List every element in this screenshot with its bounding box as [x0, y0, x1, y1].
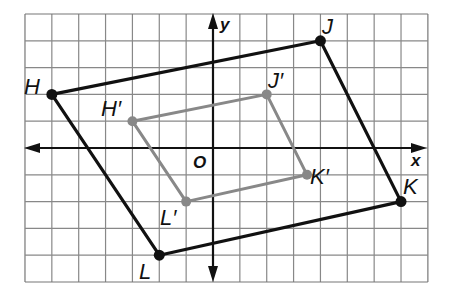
vertex-label-l: L [139, 259, 151, 284]
vertex-point-l-prime [181, 197, 191, 207]
vertex-label-h-prime: H′ [101, 96, 122, 121]
vertex-label-k: K [403, 174, 419, 199]
x-axis-left-arrow-icon [24, 143, 40, 153]
vertex-label-j-prime: J′ [267, 68, 284, 93]
x-axis-label: x [410, 151, 422, 170]
y-axis-label: y [219, 15, 231, 34]
vertex-point-h [46, 89, 57, 100]
vertex-point-l [154, 250, 165, 261]
vertex-label-k-prime: K′ [310, 164, 330, 189]
coordinate-plane-diagram: x y O H J K L H′ J′ K′ L′ [0, 0, 449, 293]
vertex-label-j: J [321, 14, 334, 39]
vertex-label-l-prime: L′ [160, 205, 177, 230]
origin-label: O [193, 153, 206, 172]
y-axis-down-arrow-icon [208, 266, 218, 282]
vertex-label-h: H [24, 74, 40, 99]
y-axis-up-arrow-icon [208, 13, 218, 29]
vertex-point-h-prime [127, 116, 137, 126]
